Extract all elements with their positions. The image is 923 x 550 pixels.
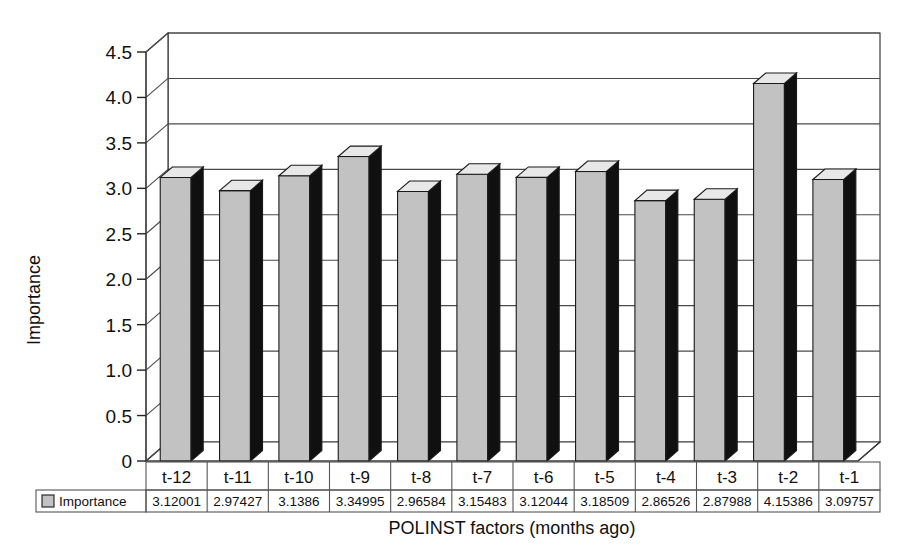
bar-side-face-t-5 [606,161,618,461]
bar-front-face-t-12 [160,177,191,461]
bar-side-face-t-10 [310,165,322,461]
y-tick-label-0.5: 0.5 [106,406,132,427]
bar-t-6 [516,167,559,461]
table-value-t-3: 2.87988 [703,494,752,509]
bar-side-face-t-9 [369,146,381,461]
bar-t-4 [635,190,678,461]
y-tick-label-1.5: 1.5 [106,315,132,336]
table-header-t-3: t-3 [717,468,737,487]
y-tick-label-3.0: 3.0 [106,178,132,199]
bar-t-9 [338,146,381,461]
y-tick-label-4.0: 4.0 [106,87,132,108]
bar-side-face-t-3 [725,189,737,461]
table-header-t-10: t-10 [284,468,313,487]
table-value-t-4: 2.86526 [642,494,691,509]
x-axis-title: POLINST factors (months ago) [389,518,636,538]
bar-front-face-t-7 [457,174,488,461]
bar-side-face-t-6 [547,167,559,461]
bar-t-8 [398,181,441,461]
bar-t-10 [279,165,322,461]
bar-front-face-t-9 [338,157,369,461]
y-tick-label-2.5: 2.5 [106,224,132,245]
bar-t-2 [754,73,797,461]
table-header-t-2: t-2 [778,468,798,487]
y-tick-label-1.0: 1.0 [106,360,132,381]
bar-side-face-t-11 [250,180,262,461]
bar-front-face-t-8 [398,191,429,461]
bar-front-face-t-6 [516,177,547,461]
bar-front-face-t-1 [813,179,844,461]
bar-front-face-t-5 [576,172,607,461]
bar-side-face-t-1 [844,169,856,461]
table-header-t-12: t-12 [162,468,191,487]
y-tick-label-2.0: 2.0 [106,269,132,290]
bar-front-face-t-4 [635,201,666,461]
y-tick-label-0: 0 [121,451,132,472]
table-header-t-11: t-11 [224,468,252,487]
bar-side-face-t-2 [784,73,796,461]
bar-t-3 [694,189,737,461]
table-value-t-2: 4.15386 [764,494,813,509]
table-value-t-5: 3.18509 [580,494,629,509]
table-header-t-6: t-6 [534,468,554,487]
bar-chart-3d: 00.51.01.52.02.53.03.54.04.5 Importance … [0,0,923,550]
table-header-t-5: t-5 [595,468,615,487]
table-header-t-4: t-4 [656,468,676,487]
bar-t-5 [576,161,619,461]
bar-t-7 [457,164,500,461]
table-value-t-7: 3.15483 [458,494,507,509]
bar-side-face-t-12 [191,167,203,461]
bar-side-face-t-7 [488,164,500,461]
table-header-t-1: t-1 [839,468,859,487]
bar-front-face-t-10 [279,176,310,461]
y-axis-title: Importance [24,255,44,345]
bar-side-face-t-4 [666,190,678,461]
table-value-t-10: 3.1386 [278,494,319,509]
bar-front-face-t-3 [694,199,725,461]
table-value-t-6: 3.12044 [519,494,568,509]
table-header-t-9: t-9 [350,468,370,487]
legend-label-importance: Importance [59,494,127,509]
bar-t-12 [160,167,203,461]
table-value-t-11: 2.97427 [213,494,262,509]
bar-t-11 [220,180,263,461]
table-value-t-12: 3.12001 [152,494,201,509]
table-value-t-1: 3.09757 [825,494,874,509]
legend-swatch-icon [42,495,54,507]
y-tick-label-4.5: 4.5 [106,42,132,63]
chart-container: 00.51.01.52.02.53.03.54.04.5 Importance … [0,0,923,550]
y-tick-label-3.5: 3.5 [106,133,132,154]
bar-side-face-t-8 [428,181,440,461]
table-value-t-8: 2.96584 [397,494,446,509]
table-header-t-8: t-8 [411,468,431,487]
table-value-t-9: 3.34995 [336,494,385,509]
bar-front-face-t-11 [220,191,251,461]
table-header-t-7: t-7 [472,468,492,487]
bar-front-face-t-2 [754,83,785,461]
bar-t-1 [813,169,856,461]
